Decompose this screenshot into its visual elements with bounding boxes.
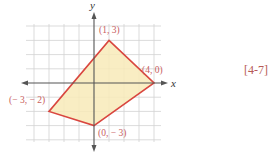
x-axis-arrow-right-icon	[161, 81, 168, 86]
y-axis-arrow-down-icon	[92, 145, 97, 152]
y-axis-label: y	[89, 0, 95, 11]
x-axis-label: x	[170, 77, 176, 89]
y-axis-arrow-up-icon	[92, 12, 97, 19]
vertex-label-0-neg3: (0, − 3)	[98, 128, 126, 139]
vertex-label-4-0: (4, 0)	[142, 65, 163, 76]
vertex-label-neg3-neg2: (− 3, − 2)	[9, 95, 45, 106]
exercise-reference: [4-7]	[244, 63, 268, 78]
vertex-label-1-3: (1, 3)	[99, 25, 120, 36]
x-axis-arrow-left-icon	[21, 81, 28, 86]
coordinate-plane: x y (1, 3) (4, 0) (0, − 3) (− 3, − 2)	[0, 0, 279, 155]
